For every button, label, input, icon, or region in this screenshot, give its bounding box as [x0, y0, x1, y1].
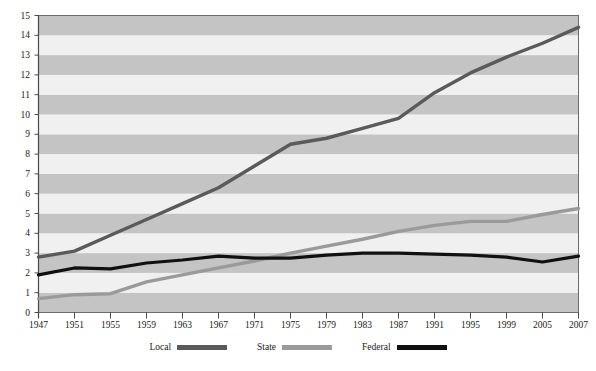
- x-axis-tick-label: 2005: [525, 320, 561, 331]
- y-axis-tick-label: 4: [6, 228, 30, 238]
- y-axis-tick-label: 8: [6, 149, 30, 159]
- legend-swatch-icon: [282, 345, 332, 350]
- x-axis-tick-label: 1955: [93, 320, 129, 331]
- x-axis-tick-label: 1975: [273, 320, 309, 331]
- y-axis-tick-label: 12: [6, 70, 30, 80]
- y-axis-tick-label: 5: [6, 209, 30, 219]
- y-axis-tick-label: 0: [6, 308, 30, 318]
- grid-band: [39, 134, 579, 154]
- y-axis-tick-label: 9: [6, 129, 30, 139]
- x-axis-tick-label: 1947: [21, 320, 57, 331]
- y-axis-tick-label: 1: [6, 288, 30, 298]
- x-axis-tick-label: 1979: [309, 320, 345, 331]
- x-axis-tick-label: 1971: [237, 320, 273, 331]
- legend-item-state[interactable]: State: [257, 342, 332, 352]
- x-axis-tick-label: 1999: [489, 320, 525, 331]
- y-axis-tick-label: 10: [6, 110, 30, 120]
- legend-item-federal[interactable]: Federal: [362, 342, 447, 352]
- y-axis-tick-label: 15: [6, 11, 30, 21]
- x-axis-tick-label: 1983: [345, 320, 381, 331]
- grid-band: [39, 174, 579, 194]
- grid-band: [39, 75, 579, 95]
- grid-band: [39, 55, 579, 75]
- grid-band: [39, 194, 579, 214]
- legend-label: Federal: [362, 342, 391, 352]
- legend-label: State: [257, 342, 276, 352]
- x-axis-tick-label: 1967: [201, 320, 237, 331]
- y-axis-tick-label: 13: [6, 50, 30, 60]
- x-axis-tick-label: 1963: [165, 320, 201, 331]
- x-axis-tick-label: 1959: [129, 320, 165, 331]
- legend-swatch-icon: [177, 345, 227, 350]
- legend-item-local[interactable]: Local: [149, 342, 227, 352]
- x-axis-ticks: [39, 313, 579, 319]
- y-axis-tick-label: 11: [6, 90, 30, 100]
- chart-container: 0123456789101112131415 19471951195519591…: [0, 0, 596, 371]
- grid-band: [39, 154, 579, 174]
- legend-label: Local: [149, 342, 171, 352]
- x-axis-tick-label: 1995: [453, 320, 489, 331]
- y-axis-tick-label: 14: [6, 30, 30, 40]
- x-axis-tick-label: 1987: [381, 320, 417, 331]
- chart-legend: LocalStateFederal: [0, 342, 596, 352]
- grid-band: [39, 115, 579, 135]
- x-axis-tick-label: 1991: [417, 320, 453, 331]
- x-axis-tick-label: 1951: [57, 320, 93, 331]
- grid-band: [39, 293, 579, 313]
- y-axis-tick-label: 3: [6, 248, 30, 258]
- grid-band: [39, 95, 579, 115]
- y-axis-tick-label: 2: [6, 268, 30, 278]
- x-axis-tick-label: 2007: [561, 320, 596, 331]
- legend-swatch-icon: [397, 345, 447, 350]
- grid-band: [39, 16, 579, 36]
- y-axis-tick-label: 6: [6, 189, 30, 199]
- grid-band: [39, 35, 579, 55]
- y-axis-tick-label: 7: [6, 169, 30, 179]
- plot-area: [0, 0, 596, 371]
